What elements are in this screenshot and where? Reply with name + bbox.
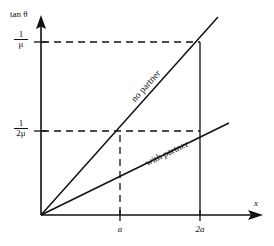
y-tick-label-1-over-2mu: 1 2μ <box>10 119 32 139</box>
figure-container: no partner with partner tan θ x a 2a 1 μ… <box>0 0 274 246</box>
y-tick-label-1-over-mu: 1 μ <box>10 30 32 50</box>
plot-svg: no partner with partner tan θ x a 2a <box>0 0 274 246</box>
x-tick-label-a: a <box>118 224 123 234</box>
series-label-with-partner: with partner <box>144 138 191 168</box>
series-line-no-partner <box>41 17 218 215</box>
y-axis-label: tan θ <box>10 9 28 19</box>
x-tick-label-2a: 2a <box>196 224 206 234</box>
fraction-numerator: 1 <box>10 119 32 128</box>
fraction-denominator: μ <box>10 40 32 49</box>
fraction-denominator: 2μ <box>10 129 32 138</box>
series-line-with-partner <box>41 123 229 215</box>
fraction-numerator: 1 <box>10 30 32 39</box>
x-axis-label: x <box>253 198 258 208</box>
